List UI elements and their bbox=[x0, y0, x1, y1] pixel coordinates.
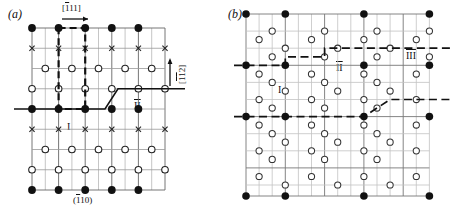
interface-boundary-b-upper bbox=[234, 48, 452, 65]
direction-arrow-a-right bbox=[168, 58, 173, 86]
panel-a: (a) [111] [112] (110) I II bbox=[0, 0, 226, 217]
interface-boundary-a bbox=[14, 89, 185, 109]
panel-b-lattice bbox=[226, 0, 452, 217]
direction-arrow-a-top bbox=[62, 17, 88, 22]
panel-a-lattice bbox=[0, 0, 226, 217]
open-circles-b bbox=[256, 28, 433, 188]
interface-boundary-b-lower bbox=[234, 100, 452, 117]
panel-b: (b) I II III bbox=[226, 0, 452, 217]
